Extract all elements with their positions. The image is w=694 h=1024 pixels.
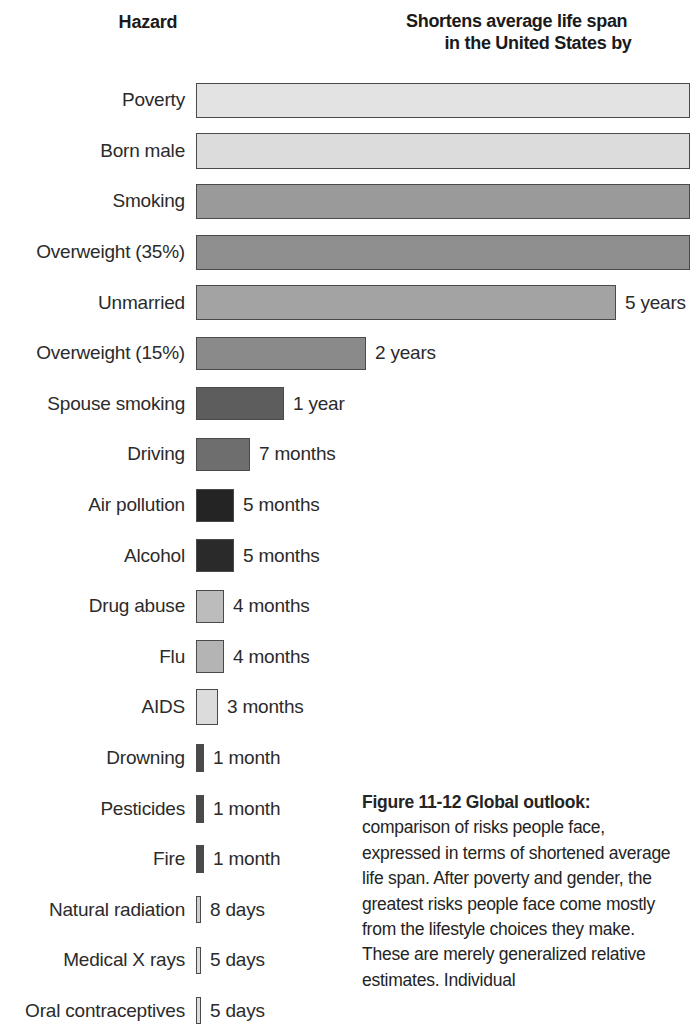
chart-row: Overweight (35%) <box>0 228 670 279</box>
chart-row: Flu4 months <box>0 633 670 684</box>
bar-value-label: 1 month <box>213 848 280 870</box>
hazard-label: AIDS <box>0 696 185 718</box>
bar-group: 7 months <box>196 438 336 471</box>
bar-group: 1 month <box>196 845 280 873</box>
hazard-bar <box>196 489 234 522</box>
bar-value-label: 1 month <box>213 747 280 769</box>
bar-group: 5 months <box>196 539 320 572</box>
bar-group <box>196 235 690 270</box>
bar-value-label: 7 months <box>259 443 336 465</box>
hazard-bar <box>196 387 284 420</box>
figure-caption-title: Figure 11-12 Global outlook: <box>362 792 590 812</box>
bar-value-label: 5 years <box>625 292 686 314</box>
hazard-bar <box>196 285 616 320</box>
hazard-bar <box>196 337 366 370</box>
hazard-label: Drug abuse <box>0 595 185 617</box>
bar-group <box>196 184 690 219</box>
value-column-header: Shortens average life span in the United… <box>406 10 694 54</box>
bar-value-label: 4 months <box>233 646 310 668</box>
hazard-label: Fire <box>0 848 185 870</box>
bar-group: 5 months <box>196 489 320 522</box>
chart-row: Smoking <box>0 177 670 228</box>
hazard-bar <box>196 689 218 725</box>
hazard-bar <box>196 845 204 873</box>
chart-row: Drowning1 month <box>0 734 670 785</box>
bar-value-label: 1 year <box>293 393 345 415</box>
chart-row: Air pollution5 months <box>0 481 670 532</box>
bar-group: 5 days <box>196 947 265 974</box>
hazard-label: Air pollution <box>0 494 185 516</box>
bar-group: 8 days <box>196 896 265 923</box>
chart-row: AIDS3 months <box>0 683 670 734</box>
hazard-label: Pesticides <box>0 798 185 820</box>
bar-group: 3 months <box>196 689 304 725</box>
bar-group: 2 years <box>196 337 436 370</box>
hazard-label: Natural radiation <box>0 899 185 921</box>
hazard-label: Overweight (35%) <box>0 241 185 263</box>
chart-header-row: Hazard Shortens average life span in the… <box>0 0 670 76</box>
hazard-bar <box>196 438 250 471</box>
bar-group <box>196 133 690 169</box>
value-header-line-1: Shortens average life span <box>406 11 627 31</box>
hazard-bar <box>196 590 224 623</box>
bar-group: 5 years <box>196 285 686 320</box>
hazard-column-header: Hazard <box>74 12 222 33</box>
chart-row: Born male <box>0 127 670 178</box>
chart-row: Unmarried5 years <box>0 278 670 329</box>
bar-value-label: 5 days <box>210 1000 265 1022</box>
bar-value-label: 8 days <box>210 899 265 921</box>
hazard-bar <box>196 640 224 673</box>
figure-caption-body: comparison of risks people face, express… <box>362 817 670 989</box>
hazard-label: Smoking <box>0 190 185 212</box>
chart-row: Drug abuse4 months <box>0 582 670 633</box>
bar-value-label: 5 months <box>243 494 320 516</box>
hazard-label: Driving <box>0 443 185 465</box>
hazard-bar <box>196 896 201 923</box>
hazard-label: Overweight (15%) <box>0 342 185 364</box>
hazard-bar <box>196 83 690 118</box>
hazard-label: Drowning <box>0 747 185 769</box>
hazard-bar <box>196 997 201 1024</box>
value-header-line-2: in the United States by <box>406 32 670 54</box>
hazard-label: Flu <box>0 646 185 668</box>
figure-caption: Figure 11-12 Global outlook: comparison … <box>362 790 672 993</box>
chart-row: Spouse smoking1 year <box>0 380 670 431</box>
bar-group <box>196 83 690 118</box>
hazard-bar <box>196 235 690 270</box>
bar-value-label: 4 months <box>233 595 310 617</box>
bar-value-label: 3 months <box>227 696 304 718</box>
bar-value-label: 5 days <box>210 949 265 971</box>
hazard-bar <box>196 947 201 974</box>
bar-value-label: 2 years <box>375 342 436 364</box>
hazard-label: Spouse smoking <box>0 393 185 415</box>
hazard-bar <box>196 133 690 169</box>
chart-row: Poverty <box>0 76 670 127</box>
hazard-bar <box>196 744 204 772</box>
hazard-label: Medical X rays <box>0 949 185 971</box>
hazard-label: Born male <box>0 140 185 162</box>
chart-row: Alcohol5 months <box>0 531 670 582</box>
bar-group: 1 month <box>196 744 280 772</box>
bar-group: 1 month <box>196 795 280 823</box>
bar-group: 1 year <box>196 387 345 420</box>
hazard-bar <box>196 539 234 572</box>
bar-group: 4 months <box>196 640 310 673</box>
chart-row: Driving7 months <box>0 430 670 481</box>
hazard-label: Poverty <box>0 89 185 111</box>
hazard-bar <box>196 184 690 219</box>
bar-group: 5 days <box>196 997 265 1024</box>
bar-value-label: 1 month <box>213 798 280 820</box>
bar-group: 4 months <box>196 590 310 623</box>
hazard-bar <box>196 795 204 823</box>
hazard-label: Oral contraceptives <box>0 1000 185 1022</box>
hazard-label: Unmarried <box>0 292 185 314</box>
hazard-label: Alcohol <box>0 545 185 567</box>
chart-row: Overweight (15%)2 years <box>0 329 670 380</box>
bar-value-label: 5 months <box>243 545 320 567</box>
